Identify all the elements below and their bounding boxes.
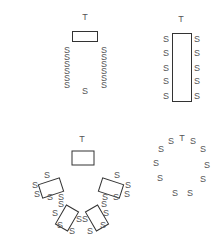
table: [72, 151, 94, 165]
student-label: S: [194, 48, 200, 58]
student-label: S: [200, 144, 206, 154]
student-label: S: [58, 199, 64, 209]
layout-long-table: TSSSSSSSSSS: [163, 14, 200, 102]
student-label: S: [194, 76, 200, 86]
student-label: S: [101, 80, 107, 90]
student-label: S: [44, 170, 50, 180]
student-label: S: [190, 136, 196, 146]
student-label: S: [163, 63, 169, 73]
student-label: S: [82, 214, 88, 224]
layout-group-tables-arc: TSSSSSSSSSSSSSSSSSSSS: [32, 134, 131, 236]
seating-diagram: TSSSSSSSSSSSSSTSSSSSSSSSSTSSSSSSSSSSSSSS…: [0, 0, 222, 248]
layout-rows: TSSSSSSSSSSSSS: [64, 12, 107, 96]
student-label: S: [194, 63, 200, 73]
student-label: S: [163, 91, 169, 101]
student-label: S: [157, 173, 163, 183]
student-label: S: [163, 76, 169, 86]
teacher-label: T: [82, 12, 88, 22]
student-label: S: [124, 189, 130, 199]
student-label: S: [153, 158, 159, 168]
student-label: S: [200, 174, 206, 184]
student-label: S: [163, 34, 169, 44]
student-label: S: [47, 192, 53, 202]
student-label: S: [163, 48, 169, 58]
student-label: S: [52, 208, 58, 218]
student-label: S: [204, 160, 210, 170]
student-label: S: [187, 188, 193, 198]
student-label: S: [100, 220, 106, 230]
student-label: S: [194, 34, 200, 44]
student-label: S: [194, 91, 200, 101]
student-label: S: [82, 86, 88, 96]
student-label: S: [168, 136, 174, 146]
student-label: S: [64, 80, 70, 90]
student-label: S: [69, 226, 75, 236]
student-label: S: [87, 226, 93, 236]
layout-circle: TSSSSSSSSSS: [153, 133, 210, 198]
student-label: S: [34, 189, 40, 199]
teacher-label: T: [178, 14, 184, 24]
teacher-label: T: [179, 133, 185, 143]
teacher-label: T: [79, 134, 85, 144]
student-label: S: [57, 220, 63, 230]
table: [173, 34, 192, 102]
student-label: S: [172, 188, 178, 198]
student-label: S: [158, 144, 164, 154]
student-label: S: [103, 208, 109, 218]
student-label: S: [102, 192, 108, 202]
table: [73, 32, 98, 42]
student-label: S: [113, 192, 119, 202]
student-label: S: [114, 170, 120, 180]
